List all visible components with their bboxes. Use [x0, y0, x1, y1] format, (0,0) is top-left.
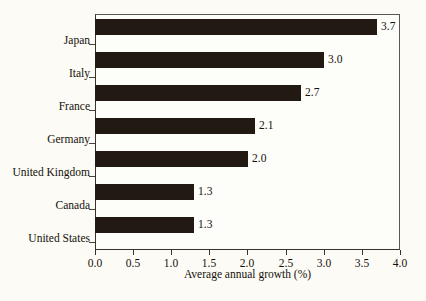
bar-value-united-states: 1.3: [198, 219, 212, 231]
x-axis-tick: [133, 250, 134, 255]
x-axis-label-6: 3.0: [317, 258, 331, 270]
x-axis-label-8: 4.0: [393, 258, 407, 270]
bar-united-states[interactable]: [95, 217, 194, 233]
x-axis-tick: [324, 250, 325, 255]
category-label-united-kingdom: United Kingdom: [0, 167, 90, 179]
bar-row: 1.3: [95, 184, 400, 200]
bar-chart: Japan Italy France Germany United Kingdo…: [0, 0, 426, 301]
bar-row: 1.3: [95, 217, 400, 233]
bar-germany[interactable]: [95, 118, 255, 134]
bar-japan[interactable]: [95, 19, 377, 35]
category-label-france: France: [0, 101, 90, 113]
bar-france[interactable]: [95, 85, 301, 101]
x-axis-tick: [95, 250, 96, 255]
bar-value-canada: 1.3: [198, 186, 212, 198]
bar-row: 2.0: [95, 151, 400, 167]
bar-value-france: 2.7: [305, 87, 319, 99]
bar-row: 3.7: [95, 19, 400, 35]
bar-row: 2.1: [95, 118, 400, 134]
x-axis-label-0: 0.0: [88, 258, 102, 270]
category-label-germany: Germany: [0, 134, 90, 146]
x-axis-label-2: 1.0: [164, 258, 178, 270]
x-axis-tick: [286, 250, 287, 255]
category-label-japan: Japan: [0, 35, 90, 47]
bar-row: 3.0: [95, 52, 400, 68]
bar-united-kingdom[interactable]: [95, 151, 248, 167]
bar-row: 2.7: [95, 85, 400, 101]
x-axis-title: Average annual growth (%): [95, 269, 400, 281]
bar-italy[interactable]: [95, 52, 324, 68]
x-axis-tick: [247, 250, 248, 255]
x-axis-tick: [400, 250, 401, 255]
x-axis-tick: [209, 250, 210, 255]
bar-value-italy: 3.0: [328, 54, 342, 66]
x-axis-label-7: 3.5: [355, 258, 369, 270]
x-axis-label-1: 0.5: [126, 258, 140, 270]
bars-layer: 3.7 3.0 2.7 2.1 2.0 1.3 1.3: [95, 14, 400, 250]
bar-value-germany: 2.1: [259, 120, 273, 132]
bar-canada[interactable]: [95, 184, 194, 200]
x-axis-tick: [362, 250, 363, 255]
x-axis-tick: [171, 250, 172, 255]
category-label-canada: Canada: [0, 200, 90, 212]
bar-value-japan: 3.7: [381, 21, 395, 33]
category-label-italy: Italy: [0, 68, 90, 80]
category-axis-labels: Japan Italy France Germany United Kingdo…: [0, 14, 90, 250]
category-label-united-states: United States: [0, 233, 90, 245]
bar-value-united-kingdom: 2.0: [252, 153, 266, 165]
